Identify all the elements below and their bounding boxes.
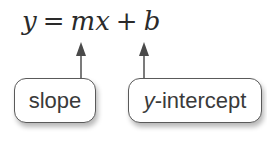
intercept-rest: -intercept [155,88,247,113]
intercept-arrow-icon [139,42,149,79]
slope-label: slope [29,88,82,114]
intercept-var: y [144,88,155,113]
intercept-label-box: y-intercept [128,78,262,123]
slope-label-box: slope [14,78,96,123]
intercept-label: y-intercept [144,88,247,114]
slope-arrow-icon [76,42,86,79]
